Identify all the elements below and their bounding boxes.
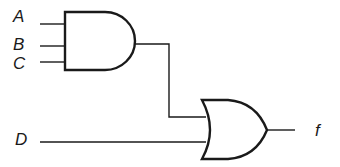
or-gate <box>202 100 267 159</box>
output-label-f: f <box>315 122 320 139</box>
wire-and-to-or <box>135 44 206 117</box>
input-label-c: C <box>13 55 25 72</box>
input-label-d: D <box>15 131 27 148</box>
logic-circuit-diagram <box>0 0 340 167</box>
and-gate <box>65 12 135 70</box>
input-label-b: B <box>13 36 24 53</box>
input-label-a: A <box>13 8 24 25</box>
